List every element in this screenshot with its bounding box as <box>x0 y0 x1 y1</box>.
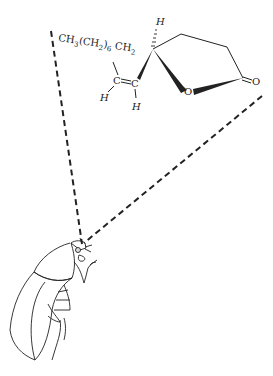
pheromone-diagram: CH3(CH2)6 CH2 C C H H H O O <box>0 0 273 376</box>
beetle-elytra <box>10 272 72 360</box>
double-bond-b <box>121 82 131 84</box>
bond-c1-h <box>108 86 114 92</box>
beetle-illustration <box>10 238 97 360</box>
sensing-line-left <box>51 31 82 244</box>
double-bond-a <box>121 79 131 81</box>
beetle-leg-hind <box>52 318 66 360</box>
wedge-bond-stereo-o <box>153 49 187 93</box>
alkyl-chain-label: CH3(CH2)6 CH2 <box>57 32 136 57</box>
beetle-mandible <box>78 255 85 261</box>
atom-h-vinyl-2: H <box>131 101 141 112</box>
bond-ch2-c1 <box>113 62 118 75</box>
sensing-line-right <box>84 96 262 243</box>
atom-vinyl-c1: C <box>113 75 121 86</box>
ring-bonds <box>153 34 243 78</box>
beetle-eye <box>76 248 81 253</box>
wedge-bond-c2-stereo <box>137 49 153 80</box>
wedge-bond-o-carbonyl <box>193 78 243 95</box>
atom-carbonyl-oxygen: O <box>252 76 260 87</box>
carbonyl-bond-a <box>243 77 252 80</box>
atom-h-vinyl-1: H <box>99 92 109 103</box>
beetle-leg-front <box>74 260 97 283</box>
svg-text:CH3(CH2)6 CH2: CH3(CH2)6 CH2 <box>57 32 136 57</box>
bond-c2-h <box>135 89 136 98</box>
hashed-bond-h <box>151 30 157 46</box>
beetle-leg-mid <box>48 304 60 322</box>
carbonyl-bond-b <box>242 80 251 83</box>
atom-h-stereo: H <box>155 16 165 27</box>
atom-vinyl-c2: C <box>131 78 139 89</box>
beetle-pronotum <box>34 243 75 280</box>
atom-ring-oxygen: O <box>184 86 192 97</box>
